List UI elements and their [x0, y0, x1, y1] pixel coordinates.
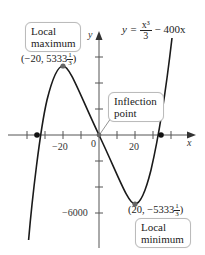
- eq-den: 3: [140, 31, 152, 41]
- y-axis-label: y: [88, 29, 92, 40]
- label-text: (20, −5333: [128, 204, 174, 215]
- equation-label: y = x³3 − 400x: [122, 20, 186, 41]
- callout-line: maximum: [31, 37, 75, 49]
- callout-line: Local: [141, 221, 185, 233]
- callout-line: point: [114, 107, 158, 119]
- eq-fraction: x³3: [140, 20, 152, 41]
- zero-left-point: [34, 132, 40, 138]
- zero-right-point: [158, 132, 164, 138]
- eq-rest: − 400x: [155, 23, 186, 35]
- local-minimum-label: (20, −533313): [128, 203, 183, 218]
- x-tick-label: 0: [91, 138, 96, 149]
- x-tick-label: 20: [129, 141, 139, 152]
- x-tick-label: −20: [52, 141, 68, 152]
- callout-line: Inflection: [114, 95, 158, 107]
- label-end: ): [180, 204, 184, 215]
- local-maximum-callout: Local maximum: [25, 22, 81, 52]
- y-axis-arrow-icon: [96, 31, 103, 40]
- y-tick-label: −6000: [62, 207, 88, 218]
- local-minimum-callout: Local minimum: [135, 218, 191, 248]
- label-end: ): [73, 53, 77, 64]
- local-maximum-label: (−20, 533313): [21, 52, 76, 67]
- callout-line: Local: [31, 25, 75, 37]
- callout-line: minimum: [141, 233, 185, 245]
- eq-lhs: y =: [122, 23, 137, 35]
- label-text: (−20, 5333: [21, 53, 67, 64]
- x-axis-label: x: [187, 137, 191, 148]
- inflection-callout: Inflection point: [108, 92, 164, 122]
